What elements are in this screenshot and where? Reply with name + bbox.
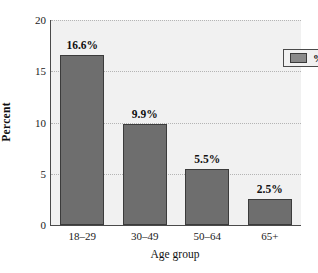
x-axis-tick-label: 65+ [261, 230, 278, 242]
bar-value-label: 16.6% [51, 39, 114, 51]
legend-label-pct-yes: % Yes [313, 52, 318, 64]
x-axis-tick-label: 50–64 [194, 230, 222, 242]
plot-area: 05101520 16.6%9.9%5.5%2.5% 18–2930–4950–… [50, 20, 301, 226]
x-axis-tick-label: 30–49 [131, 230, 159, 242]
y-axis-tick-label: 20 [35, 14, 46, 26]
y-axis-tick-label: 5 [41, 168, 47, 180]
legend-swatch-pct-yes [290, 53, 307, 63]
bars-layer: 16.6%9.9%5.5%2.5% [51, 20, 301, 225]
x-axis-tick-label: 18–29 [69, 230, 97, 242]
y-axis-title: Percent [0, 102, 12, 142]
bar [248, 199, 292, 225]
bar-value-label: 2.5% [239, 183, 302, 195]
y-axis-tick-label: 10 [35, 117, 46, 129]
y-axis-tick-label: 15 [35, 65, 46, 77]
bar-value-label: 9.9% [114, 108, 177, 120]
y-axis-tick-label: 0 [41, 219, 47, 231]
bar-value-label: 5.5% [176, 153, 239, 165]
bar [123, 124, 167, 225]
x-axis-title: Age group [50, 248, 300, 260]
bar [60, 55, 104, 225]
bar [185, 169, 229, 225]
bar-chart: Percent 05101520 16.6%9.9%5.5%2.5% 18–29… [0, 0, 318, 273]
legend: % Yes [283, 49, 318, 67]
